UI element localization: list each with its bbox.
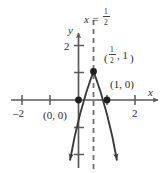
x-tick-label-2: 2 [132, 107, 138, 119]
vertex-second-coordinate: , 1 [117, 49, 128, 61]
axis-of-symmetry-equation: x = [83, 13, 99, 25]
y-tick-label-2: 2 [64, 40, 70, 52]
point-origin-marker [75, 97, 82, 104]
vertex-numerator: 1 [110, 45, 114, 54]
x-axis-label: x [147, 86, 153, 98]
point-origin-label: (0, 0) [43, 109, 67, 122]
x-tick-label-minus-2: –2 [12, 107, 24, 119]
point-vertex-marker [90, 68, 97, 75]
vertex-denominator: 2 [110, 56, 114, 65]
axis-of-symmetry-numerator: 1 [104, 7, 108, 16]
point-root-label: (1, 0) [110, 78, 134, 91]
point-root-marker [104, 97, 111, 104]
axis-of-symmetry-denominator: 2 [104, 18, 108, 27]
vertex-open-paren: ( [104, 52, 108, 65]
point-vertex-label: ( 1 2 , 1 ) [104, 45, 134, 65]
vertex-close-paren: ) [130, 52, 134, 65]
parabola-figure: y x –2 2 2 (0, 0) (1, 0) ( 1 2 , 1 ) x =… [0, 0, 168, 173]
axis-of-symmetry-label: x = 1 2 [83, 7, 110, 27]
y-axis-label: y [67, 24, 73, 36]
figure-canvas: y x –2 2 2 (0, 0) (1, 0) ( 1 2 , 1 ) x =… [0, 0, 168, 173]
